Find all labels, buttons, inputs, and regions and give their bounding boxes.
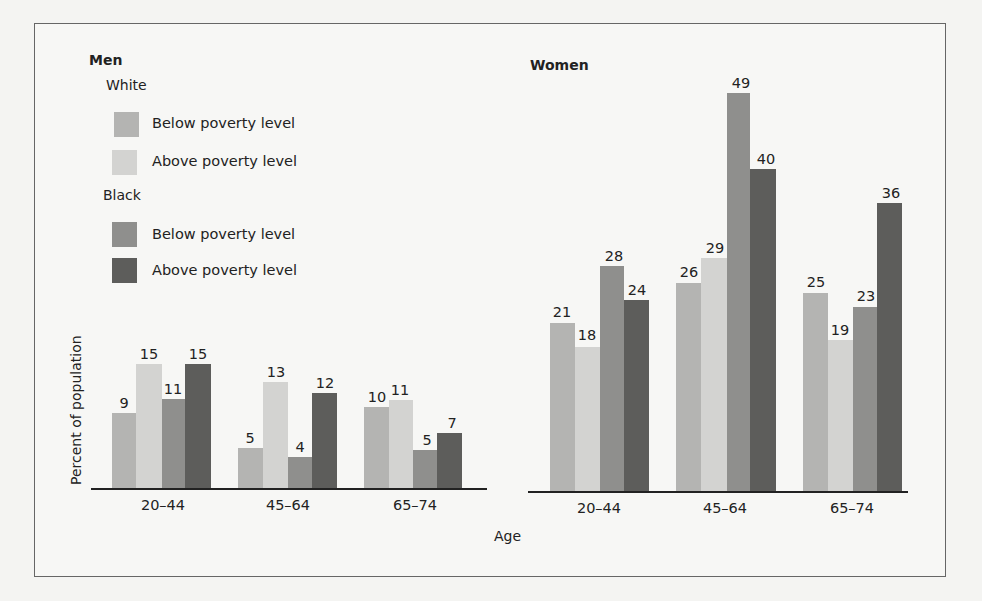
value-label: 5: [230, 430, 270, 446]
value-label: 4: [280, 439, 320, 455]
legend-swatch-white-above: [112, 150, 137, 175]
legend-black-heading: Black: [103, 187, 141, 203]
bar-men-65-74-white-below: [364, 407, 389, 488]
value-label: 26: [669, 264, 709, 280]
bar-men-65-74-black-below: [413, 450, 437, 488]
value-label: 28: [594, 248, 634, 264]
women-panel-title: Women: [530, 57, 589, 73]
legend-swatch-white-below: [114, 112, 139, 137]
bar-men-20-44-white-below: [112, 413, 136, 488]
value-label: 29: [695, 240, 735, 256]
legend-white-heading: White: [106, 77, 147, 93]
men-x-axis: [91, 488, 487, 490]
value-label: 5: [407, 432, 447, 448]
value-label: 7: [432, 415, 472, 431]
bar-women-20-44-black-below: [600, 266, 624, 491]
bar-women-65-74-white-above: [828, 340, 853, 491]
bar-women-20-44-white-above: [575, 347, 600, 491]
men-tick-20-44: 20–44: [123, 497, 203, 513]
value-label: 19: [820, 322, 860, 338]
legend-swatch-black-above: [112, 258, 137, 283]
bar-women-45-64-white-above: [701, 258, 727, 491]
legend-label-black-above: Above poverty level: [152, 262, 297, 278]
legend-label-white-above: Above poverty level: [152, 153, 297, 169]
legend-label-black-below: Below poverty level: [152, 226, 295, 242]
legend-swatch-black-below: [112, 222, 137, 247]
women-tick-20-44: 20–44: [559, 500, 639, 516]
x-axis-label: Age: [494, 528, 521, 544]
bar-women-45-64-white-below: [676, 283, 701, 491]
value-label: 24: [617, 282, 657, 298]
value-label: 36: [871, 185, 911, 201]
women-tick-65-74: 65–74: [812, 500, 892, 516]
men-panel-title: Men: [89, 52, 122, 68]
y-axis-label: Percent of population: [68, 335, 84, 485]
value-label: 21: [542, 304, 582, 320]
value-label: 18: [567, 327, 607, 343]
men-tick-45-64: 45–64: [248, 497, 328, 513]
bar-women-20-44-white-below: [550, 323, 575, 491]
value-label: 12: [305, 375, 345, 391]
value-label: 25: [796, 274, 836, 290]
value-label: 9: [104, 395, 144, 411]
bar-women-20-44-black-above: [624, 300, 649, 491]
value-label: 40: [746, 151, 786, 167]
value-label: 15: [129, 346, 169, 362]
bar-women-65-74-black-above: [877, 203, 902, 491]
value-label: 15: [178, 346, 218, 362]
women-tick-45-64: 45–64: [685, 500, 765, 516]
bar-men-45-64-white-below: [238, 448, 263, 488]
value-label: 23: [846, 288, 886, 304]
bar-men-20-44-black-below: [162, 399, 185, 488]
value-label: 11: [380, 382, 420, 398]
value-label: 11: [153, 381, 193, 397]
men-tick-65-74: 65–74: [375, 497, 455, 513]
legend-label-white-below: Below poverty level: [152, 115, 295, 131]
value-label: 49: [721, 75, 761, 91]
bar-women-45-64-black-above: [750, 169, 776, 491]
value-label: 13: [256, 364, 296, 380]
bar-men-45-64-black-below: [288, 457, 312, 488]
women-x-axis: [528, 491, 908, 493]
